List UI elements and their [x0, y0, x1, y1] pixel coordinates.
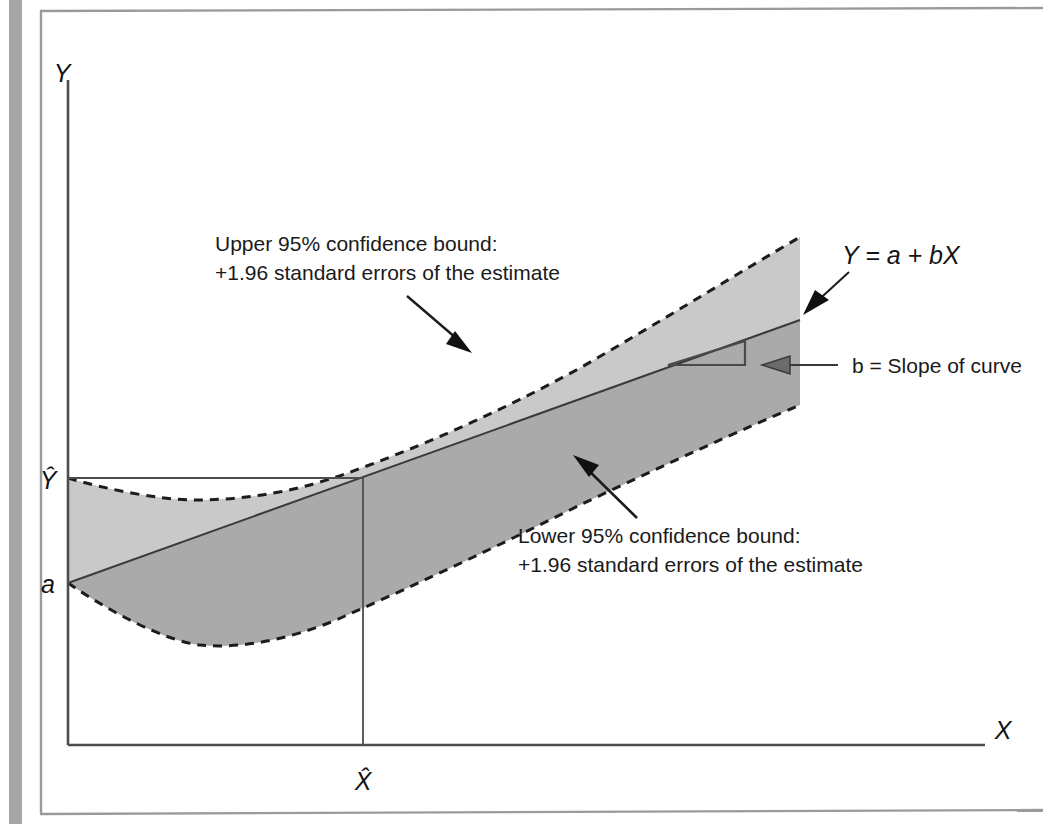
- scan-edge-bar: [9, 0, 22, 824]
- x-hat-label: X̂: [354, 767, 373, 795]
- y-hat-label: Ŷ: [40, 466, 59, 494]
- upper-bound-annotation-line1: Upper 95% confidence bound:: [215, 232, 498, 255]
- upper-bound-annotation-line2: +1.96 standard errors of the estimate: [215, 261, 560, 284]
- slope-note-label: b = Slope of curve: [852, 354, 1022, 377]
- intercept-label: a: [41, 570, 55, 598]
- x-axis-label: X: [994, 716, 1013, 744]
- lower-bound-annotation-line2: +1.96 standard errors of the estimate: [518, 553, 863, 576]
- lower-bound-annotation-line1: Lower 95% confidence bound:: [518, 524, 801, 547]
- y-axis-label: Y: [54, 59, 73, 87]
- regression-equation-label: Y = a + bX: [842, 241, 961, 269]
- regression-confidence-band-figure: Y X Ŷ X̂ a Upper 95% confidence bound: …: [0, 0, 1043, 824]
- figure-root: Y X Ŷ X̂ a Upper 95% confidence bound: …: [0, 0, 1043, 824]
